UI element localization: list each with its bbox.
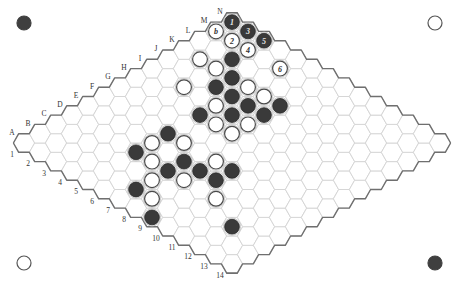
stone-black-I6 <box>223 107 240 124</box>
stone-white-K5 <box>239 79 256 96</box>
letter-label: K <box>169 35 175 44</box>
stone-white-I7 <box>239 116 256 133</box>
letter-label: M <box>201 16 208 25</box>
stone-white-M2: 2 <box>223 32 240 49</box>
stone-white-K3 <box>207 60 224 77</box>
number-label: 5 <box>74 187 78 196</box>
letter-label: N <box>217 7 223 16</box>
letter-label: L <box>186 26 191 35</box>
stone-black-J5 <box>223 88 240 105</box>
move-number-label: 5 <box>262 37 266 46</box>
number-label: 11 <box>168 243 175 252</box>
stone-black-L3 <box>223 51 240 68</box>
number-label: 7 <box>106 206 110 215</box>
stone-white-M5: 6 <box>271 60 288 77</box>
stone-white-K6 <box>255 88 272 105</box>
stone-white-H6 <box>207 116 224 133</box>
stone-white-E5 <box>143 134 160 151</box>
stone-white-I3 <box>175 79 192 96</box>
move-number-label: 4 <box>245 46 250 55</box>
letter-label: D <box>57 100 63 109</box>
stone-white-H7 <box>223 125 240 142</box>
corner-marker-bottom-right-black <box>428 256 442 270</box>
number-label: 13 <box>200 262 208 271</box>
stone-black-C12 <box>223 218 240 235</box>
stone-black-D7 <box>159 162 176 179</box>
letter-label: G <box>105 72 111 81</box>
stone-black-N2: 3 <box>239 23 256 40</box>
stone-white-K2 <box>191 51 208 68</box>
hex-board-canvas: A1B2C3D4E5F6G7H8I9J10K11L12M13N14 1b3254… <box>0 0 457 286</box>
number-label: 6 <box>90 197 94 206</box>
number-label: 2 <box>26 159 30 168</box>
stone-white-D8 <box>175 172 192 189</box>
stone-white-B8 <box>143 190 160 207</box>
stone-black-E7 <box>175 153 192 170</box>
stone-white-M1: b <box>207 23 224 40</box>
stone-black-E8 <box>191 162 208 179</box>
corner-marker-top-left-black <box>17 16 31 30</box>
stone-black-N3: 5 <box>255 32 272 49</box>
stone-white-I5 <box>207 97 224 114</box>
number-label: 10 <box>152 234 160 243</box>
hex-board: A1B2C3D4E5F6G7H8I9J10K11L12M13N14 1b3254… <box>0 0 457 286</box>
number-label: 1 <box>10 150 14 159</box>
stone-black-D5 <box>127 144 144 161</box>
stone-black-B7 <box>127 181 144 198</box>
stone-white-F6 <box>175 134 192 151</box>
letter-label: A <box>9 128 15 137</box>
move-number-label: 2 <box>229 37 234 46</box>
stone-black-J4 <box>207 79 224 96</box>
number-label: 3 <box>42 169 46 178</box>
number-label: 14 <box>216 271 224 280</box>
stone-black-K7 <box>271 97 288 114</box>
stone-white-C7 <box>143 172 160 189</box>
move-number-label: 1 <box>230 18 234 27</box>
stone-black-J6 <box>239 97 256 114</box>
stone-white-D10 <box>207 190 224 207</box>
move-number-label: b <box>214 27 218 36</box>
stone-white-F8 <box>207 153 224 170</box>
stone-black-F9 <box>223 162 240 179</box>
corner-marker-bottom-left-white <box>17 256 31 270</box>
letter-label: C <box>41 109 46 118</box>
number-label: 4 <box>58 178 62 187</box>
stone-white-M3: 4 <box>239 41 256 58</box>
corner-marker-top-right-white <box>428 16 442 30</box>
stone-black-F5 <box>159 125 176 142</box>
stone-black-K4 <box>223 69 240 86</box>
stone-black-A9 <box>143 209 160 226</box>
stone-black-J7 <box>255 107 272 124</box>
letter-label: F <box>90 82 94 91</box>
number-label: 8 <box>122 215 126 224</box>
number-label: 12 <box>184 252 192 261</box>
stone-black-N1: 1 <box>223 14 240 31</box>
stone-white-D6 <box>143 153 160 170</box>
move-number-label: 6 <box>278 65 282 74</box>
move-number-label: 3 <box>245 27 250 36</box>
letter-label: H <box>121 63 127 72</box>
stone-black-H5 <box>191 107 208 124</box>
letter-label: I <box>139 54 142 63</box>
letter-label: E <box>74 91 79 100</box>
number-label: 9 <box>138 224 142 233</box>
letter-label: B <box>25 119 30 128</box>
stone-black-E9 <box>207 172 224 189</box>
letter-label: J <box>155 44 158 53</box>
